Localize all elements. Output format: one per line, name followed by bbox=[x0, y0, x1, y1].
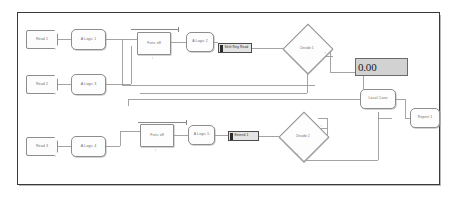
port-tick: i bbox=[325, 51, 326, 55]
numeric-display[interactable]: 0.00 bbox=[355, 58, 408, 76]
node-label: Func off bbox=[147, 42, 161, 46]
node-process-1[interactable]: A Logic 1 bbox=[71, 29, 106, 50]
node-label: Extend 1 bbox=[235, 134, 249, 137]
node-label: Local Case bbox=[369, 97, 388, 101]
port-tick: i bbox=[155, 148, 156, 152]
port-tick: i bbox=[321, 124, 322, 128]
node-label: A Logic 3 bbox=[81, 83, 97, 87]
node-input-2[interactable]: Read 2 bbox=[26, 75, 58, 94]
node-label: Shift Reg Read bbox=[225, 46, 249, 49]
numeric-display-value: 0.00 bbox=[358, 61, 376, 73]
node-label: Report 1 bbox=[418, 116, 433, 120]
node-selected-1[interactable]: Shift Reg Read bbox=[218, 43, 252, 53]
node-process-4[interactable]: A Logic 2 bbox=[186, 32, 214, 52]
node-label: A Logic 5 bbox=[194, 133, 210, 137]
port-tick: i bbox=[55, 47, 56, 51]
port-tick: i bbox=[55, 92, 56, 96]
node-process-2[interactable]: A Logic 3 bbox=[71, 74, 106, 95]
node-process-5[interactable]: A Logic 5 bbox=[188, 125, 215, 145]
node-rect-2[interactable]: Func off bbox=[140, 124, 174, 147]
node-rect-1[interactable]: Func off bbox=[137, 32, 171, 55]
node-merge[interactable]: Local Case bbox=[360, 89, 396, 109]
decision-label: Decide 2 bbox=[286, 119, 320, 153]
node-selected-2[interactable]: Extend 1 bbox=[228, 131, 259, 141]
decision-label: Decide 1 bbox=[290, 31, 324, 65]
node-label: Func off bbox=[150, 134, 164, 138]
node-label: Read 3 bbox=[36, 145, 48, 149]
node-label: Read 2 bbox=[36, 83, 48, 87]
node-input-1[interactable]: Read 1 bbox=[26, 30, 58, 49]
node-label: A Logic 2 bbox=[192, 40, 208, 44]
node-label: Read 1 bbox=[36, 38, 48, 42]
port-tick: i bbox=[297, 152, 298, 156]
node-label: A Logic 1 bbox=[81, 38, 97, 42]
decision-node-2[interactable]: Decide 2 bbox=[286, 119, 320, 153]
port-tick: i bbox=[152, 56, 153, 60]
node-output-1[interactable]: Report 1 bbox=[410, 108, 440, 128]
node-label: A Logic 4 bbox=[81, 145, 97, 149]
node-input-3[interactable]: Read 3 bbox=[26, 137, 58, 156]
node-process-3[interactable]: A Logic 4 bbox=[71, 136, 106, 157]
port-tick: i bbox=[55, 154, 56, 158]
decision-node-1[interactable]: Decide 1 bbox=[290, 31, 324, 65]
